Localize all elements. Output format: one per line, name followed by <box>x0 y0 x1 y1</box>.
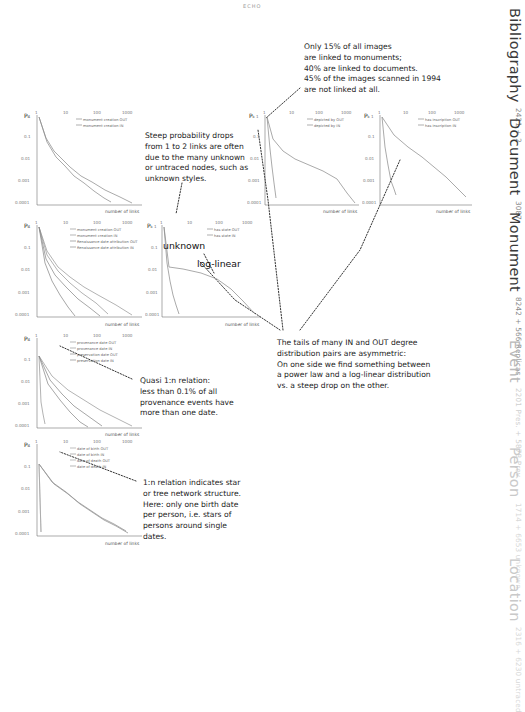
y-tick-001: 0.01 <box>21 267 31 272</box>
chart-monument-creation[interactable]: Pₖ 1 10 100 1000 1 0.1 0.01 0.001 0.0001… <box>10 105 148 217</box>
y-axis-label: Pₖ <box>249 112 256 119</box>
legend-label-in: has state IN <box>214 234 236 238</box>
x-tick-1000: 1000 <box>341 110 352 115</box>
x-tick-1000: 1000 <box>122 220 133 225</box>
series-line-death-out <box>39 464 41 532</box>
legend-label-prov-out: provenance date OUT <box>77 341 117 345</box>
x-tick-1000: 1000 <box>122 110 133 115</box>
legend-label-pres-out: preservation date OUT <box>77 353 119 357</box>
x-axis-label: number of links <box>225 322 260 327</box>
x-tick-10: 10 <box>63 110 69 115</box>
x-tick-10: 10 <box>63 439 69 444</box>
y-tick-00001: 0.0001 <box>362 200 377 205</box>
connector-steep-drops <box>176 183 182 214</box>
y-tick-00001: 0.0001 <box>145 312 160 317</box>
x-tick-10: 10 <box>187 220 193 225</box>
x-tick-1000: 1000 <box>122 333 133 338</box>
y-tick-00001: 0.0001 <box>15 200 30 205</box>
note-1n-star: 1:n relation indicates star or tree netw… <box>143 478 271 543</box>
legend-label-out: has state OUT <box>214 228 240 232</box>
x-tick-1000: 1000 <box>454 110 465 115</box>
y-axis-label: Pₖ <box>364 112 371 119</box>
y-tick-0001: 0.001 <box>18 178 30 183</box>
x-tick-10: 10 <box>289 110 295 115</box>
series-line-pres-out <box>39 356 102 426</box>
y-tick-01: 0.1 <box>24 245 31 250</box>
y-tick-001: 0.01 <box>21 486 31 491</box>
y-tick-0001: 0.001 <box>146 290 158 295</box>
x-tick-1: 1 <box>263 110 266 115</box>
y-tick-00001: 0.0001 <box>15 312 30 317</box>
legend-label-out: has inscription OUT <box>425 118 461 122</box>
x-tick-1: 1 <box>378 110 381 115</box>
x-tick-10: 10 <box>63 220 69 225</box>
x-tick-10: 10 <box>403 110 409 115</box>
y-tick-0001: 0.001 <box>18 509 30 514</box>
legend-label-in: monument creation IN <box>83 124 124 128</box>
chart-monument-renaissance[interactable]: Pₖ 1 10 100 1000 1 0.1 0.01 0.001 0.0001… <box>10 215 148 330</box>
legend-label-creation-in: monument creation IN <box>77 234 118 238</box>
y-tick-1: 1 <box>28 114 31 119</box>
y-tick-001: 0.01 <box>365 156 375 161</box>
series-line-out <box>39 117 132 203</box>
legend-label-creation-out: monument creation OUT <box>77 228 122 232</box>
x-tick-100: 100 <box>428 110 436 115</box>
chart-birth-death-dates[interactable]: Pₖ 1 10 100 1000 1 0.1 0.01 0.001 0.0001… <box>10 434 148 549</box>
series-line-out <box>382 117 396 195</box>
y-tick-1: 1 <box>28 337 31 342</box>
x-tick-100: 100 <box>93 439 101 444</box>
legend-label-birth-in: date of birth IN <box>77 453 104 457</box>
y-tick-01: 0.1 <box>151 245 158 250</box>
legend-label-out: monument creation OUT <box>83 118 128 122</box>
label-log-linear: log-linear <box>197 258 241 269</box>
chart-provenance-preservation[interactable]: Pₖ 1 10 100 1000 1 0.1 0.01 0.001 0.0001… <box>10 328 148 440</box>
y-tick-0001: 0.001 <box>18 401 30 406</box>
series-line-in <box>382 117 466 197</box>
x-tick-100: 100 <box>215 220 223 225</box>
legend-label-renaissance-in: Renaissance date attribution IN <box>77 246 134 250</box>
y-tick-1: 1 <box>28 224 31 229</box>
y-tick-1: 1 <box>28 443 31 448</box>
y-axis-label: Pₖ <box>147 222 154 229</box>
label-unknown: unknown <box>163 240 205 251</box>
legend-label-in: has inscription IN <box>425 124 456 128</box>
y-tick-00001: 0.0001 <box>15 531 30 536</box>
x-tick-1: 1 <box>35 110 38 115</box>
x-axis-label: number of links <box>436 209 471 214</box>
x-tick-100: 100 <box>93 220 101 225</box>
chart-has-inscription[interactable]: Pₖ 1 10 100 1000 1 0.1 0.01 0.001 0.0001… <box>362 105 478 217</box>
legend-label-death-in: date of death IN <box>77 465 106 469</box>
y-tick-0001: 0.001 <box>18 290 30 295</box>
series-line-birth-in <box>39 464 126 531</box>
x-tick-100: 100 <box>93 333 101 338</box>
y-tick-001: 0.01 <box>21 156 31 161</box>
x-axis-label: number of links <box>105 322 140 327</box>
x-tick-1: 1 <box>35 220 38 225</box>
x-axis-label: number of links <box>323 209 358 214</box>
legend-label-death-out: date of death OUT <box>77 459 111 463</box>
note-steep-drops: Steep probability drops from 1 to 2 link… <box>145 131 273 185</box>
legend-label-pres-in: preservation date IN <box>77 359 114 363</box>
y-tick-1: 1 <box>371 114 374 119</box>
legend-label-out: depicted by OUT <box>314 118 345 122</box>
x-tick-10: 10 <box>63 333 69 338</box>
note-images-linked: Only 15% of all images are linked to mon… <box>304 42 474 96</box>
note-quasi-1n: Quasi 1:n relation: less than 0.1% of al… <box>140 376 264 419</box>
y-tick-001: 0.01 <box>21 379 31 384</box>
x-tick-100: 100 <box>315 110 323 115</box>
y-tick-01: 0.1 <box>24 134 31 139</box>
legend-label-renaissance-out: Renaissance date attribution OUT <box>77 240 138 244</box>
series-line-renaissance-in <box>39 227 75 316</box>
x-axis-label: number of links <box>105 541 140 546</box>
y-tick-01: 0.1 <box>368 134 375 139</box>
x-tick-1: 1 <box>160 220 163 225</box>
series-line-in <box>267 117 355 203</box>
y-tick-1: 1 <box>256 114 259 119</box>
x-tick-1000: 1000 <box>242 220 253 225</box>
note-asymmetric-tails: The tails of many IN and OUT degree dist… <box>277 338 437 392</box>
series-line-death-in <box>39 464 128 533</box>
x-tick-100: 100 <box>93 110 101 115</box>
chart-has-state[interactable]: Pₖ 1 10 100 1000 1 0.1 0.01 0.001 0.0001… <box>145 215 267 330</box>
x-tick-1: 1 <box>35 439 38 444</box>
legend-label-prov-in: provenance date IN <box>77 347 113 351</box>
